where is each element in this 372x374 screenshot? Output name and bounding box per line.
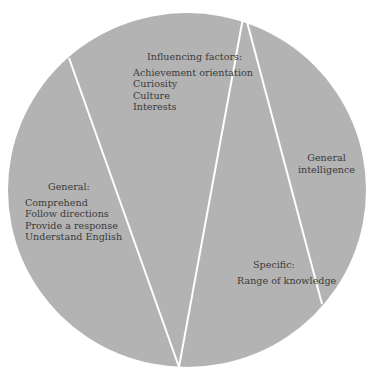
segment-label-specific: Specific: Range of knowledge bbox=[237, 259, 336, 286]
intelligence-pie-diagram: Influencing factors: Achievement orienta… bbox=[0, 0, 372, 374]
segment-heading: Influencing factors: bbox=[147, 51, 253, 63]
segment-label-general: General: Comprehend Follow directions Pr… bbox=[25, 181, 122, 243]
segment-item: Understand English bbox=[25, 231, 122, 243]
segment-item: Interests bbox=[133, 101, 253, 113]
segment-item: intelligence bbox=[298, 164, 355, 176]
segment-heading: General: bbox=[48, 181, 122, 193]
segment-item: Comprehend bbox=[25, 197, 122, 209]
segment-heading: General bbox=[298, 152, 355, 164]
segment-item: Range of knowledge bbox=[237, 275, 336, 287]
segment-item: Provide a response bbox=[25, 220, 122, 232]
segment-label-general-intelligence: General intelligence bbox=[298, 152, 355, 175]
segment-item: Curiosity bbox=[133, 78, 253, 90]
segment-label-influencing-factors: Influencing factors: Achievement orienta… bbox=[133, 51, 253, 113]
segment-item: Achievement orientation bbox=[133, 67, 253, 79]
segment-heading: Specific: bbox=[253, 259, 336, 271]
segment-item: Culture bbox=[133, 90, 253, 102]
segment-item: Follow directions bbox=[25, 208, 122, 220]
